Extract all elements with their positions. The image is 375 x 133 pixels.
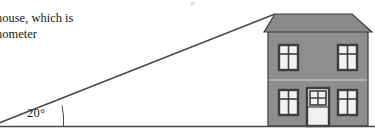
house — [264, 14, 372, 126]
window-upper-right — [338, 45, 357, 70]
front-door — [307, 88, 329, 126]
angle-label: 20° — [27, 106, 45, 121]
roof — [264, 14, 372, 32]
window-lower-right — [338, 90, 357, 115]
window-upper-left — [279, 45, 298, 70]
diagram-canvas — [0, 0, 375, 133]
window-lower-left — [279, 90, 298, 115]
angle-arc — [62, 106, 64, 127]
diagram-screenshot: house, which is nometer g — [0, 0, 375, 133]
